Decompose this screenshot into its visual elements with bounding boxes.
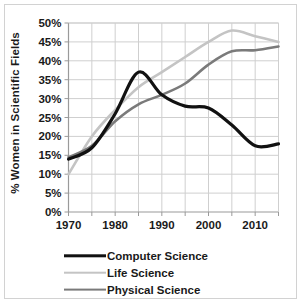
- legend-line-swatch: [62, 266, 106, 280]
- axis-lines: [65, 23, 279, 216]
- legend-item-label: Computer Science: [106, 250, 208, 262]
- legend-item[interactable]: Physical Science: [62, 281, 272, 298]
- chart-figure: % Women in Scientific Fields 50%45%40%35…: [0, 0, 301, 303]
- legend-item-label: Life Science: [106, 267, 174, 279]
- series-line: [69, 72, 279, 159]
- legend-item-label: Physical Science: [106, 284, 200, 296]
- legend-item[interactable]: Life Science: [62, 264, 272, 281]
- chart-legend: Computer ScienceLife SciencePhysical Sci…: [62, 247, 272, 298]
- data-series: [69, 30, 279, 174]
- legend-item[interactable]: Computer Science: [62, 247, 272, 264]
- legend-line-swatch: [62, 249, 106, 263]
- legend-line-swatch: [62, 283, 106, 297]
